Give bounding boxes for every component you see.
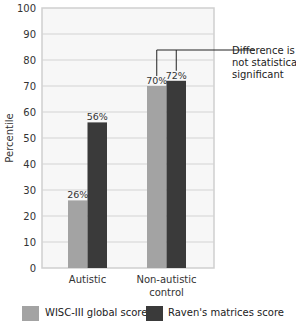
y-tick-label: 100: [17, 3, 36, 14]
y-axis-label: Percentile: [4, 113, 15, 162]
y-tick-label: 0: [30, 263, 36, 274]
annotation-text: not statistically: [232, 57, 296, 68]
y-tick-label: 30: [23, 185, 36, 196]
y-tick-label: 50: [23, 133, 36, 144]
y-tick-label: 60: [23, 107, 36, 118]
bar-chart: 0102030405060708090100Percentile26%56%Au…: [0, 0, 296, 324]
bar-value-label: 26%: [67, 189, 88, 200]
x-category-label: control: [149, 287, 184, 298]
y-tick-label: 20: [23, 211, 36, 222]
annotation-text: Difference is: [232, 45, 295, 56]
bar-value-label: 56%: [87, 111, 108, 122]
bar-value-label: 70%: [146, 75, 167, 86]
bar: [167, 81, 187, 268]
legend-swatch-wisc: [22, 306, 39, 321]
bar: [88, 122, 108, 268]
x-category-label: Non-autistic: [136, 274, 196, 285]
legend-label-raven: Raven's matrices score: [168, 307, 284, 318]
annotation-text: significant: [232, 69, 284, 80]
y-tick-label: 90: [23, 29, 36, 40]
y-tick-label: 40: [23, 159, 36, 170]
bar: [68, 200, 88, 268]
y-tick-label: 80: [23, 55, 36, 66]
legend-swatch-raven: [146, 306, 163, 321]
y-tick-label: 10: [23, 237, 36, 248]
bar: [147, 86, 167, 268]
x-category-label: Autistic: [69, 274, 106, 285]
y-tick-label: 70: [23, 81, 36, 92]
legend-label-wisc: WISC-III global score: [45, 307, 147, 318]
bar-value-label: 72%: [166, 70, 187, 81]
